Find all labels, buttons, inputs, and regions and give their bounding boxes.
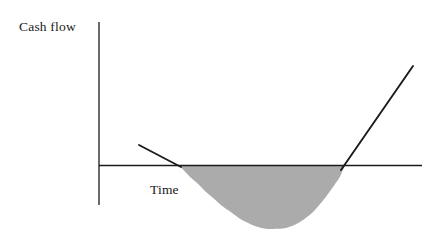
negative-cash-flow-area xyxy=(179,165,345,229)
x-axis-label: Time xyxy=(150,183,179,197)
cash-flow-entry-line xyxy=(139,145,181,167)
cash-flow-chart-svg xyxy=(0,0,434,238)
cash-flow-exit-line xyxy=(341,66,413,170)
y-axis-label: Cash flow xyxy=(19,20,76,34)
cash-flow-figure: Cash flow Time xyxy=(0,0,434,238)
